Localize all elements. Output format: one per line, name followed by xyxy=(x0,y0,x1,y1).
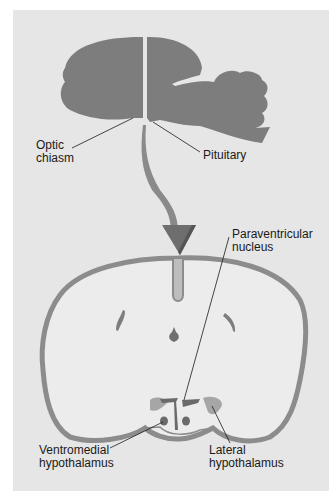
label-optic-chiasm: Optic chiasm xyxy=(36,139,74,165)
label-pituitary: Pituitary xyxy=(203,149,246,162)
section-plane xyxy=(143,35,147,123)
label-paraventricular-nucleus: Paraventricular nucleus xyxy=(232,228,313,254)
coronal-section xyxy=(42,258,306,441)
sagittal-brain xyxy=(61,37,270,143)
label-lateral-hypothalamus: Lateral hypothalamus xyxy=(209,444,284,470)
label-ventromedial-hypothalamus: Ventromedial hypothalamus xyxy=(39,444,114,470)
